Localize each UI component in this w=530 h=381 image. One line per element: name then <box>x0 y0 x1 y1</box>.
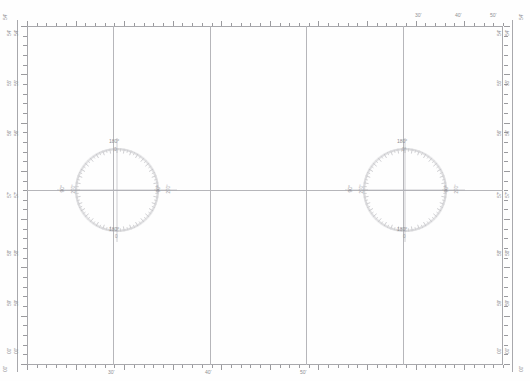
tick-left <box>23 200 27 201</box>
tick-bottom <box>182 365 183 368</box>
tick-bottom <box>464 365 465 370</box>
tick-top <box>396 23 397 26</box>
right-scale-label-pair: 57' <box>505 192 510 198</box>
tick-right <box>504 345 508 346</box>
tick-left <box>23 36 27 37</box>
tick-top <box>85 23 86 26</box>
tick-bottom <box>56 365 57 368</box>
tick-right <box>504 248 508 249</box>
tick-top <box>289 23 290 26</box>
tick-right <box>504 354 508 355</box>
tick-left <box>23 84 27 85</box>
corner-label-right-bottom: 00' <box>519 366 524 372</box>
left-scale-label-pair: 55' <box>14 80 19 86</box>
tick-top <box>425 23 426 26</box>
corner-label-left-bottom: 00' <box>3 366 8 372</box>
tick-bottom <box>66 365 67 368</box>
tick-right <box>504 45 508 46</box>
tick-bottom <box>76 365 77 370</box>
tick-left <box>21 123 27 124</box>
left-scale-label-pair: 59' <box>14 300 19 306</box>
tick-bottom <box>454 365 455 368</box>
tick-bottom <box>212 365 213 368</box>
rose-label-east-outer: 90° <box>444 185 450 193</box>
tick-left <box>21 26 27 27</box>
tick-top <box>182 23 183 26</box>
neatline-right-inner <box>512 20 513 372</box>
tick-bottom <box>221 365 222 370</box>
rose-label-south-inner: 0 <box>403 234 406 240</box>
tick-left <box>21 74 27 75</box>
tick-left <box>23 335 27 336</box>
tick-left <box>21 219 27 220</box>
tick-right <box>504 316 510 317</box>
tick-bottom <box>202 365 203 368</box>
tick-left <box>23 345 27 346</box>
tick-top <box>484 23 485 26</box>
tick-left <box>23 354 27 355</box>
tick-right <box>504 103 508 104</box>
tick-bottom <box>435 365 436 368</box>
tick-right <box>504 142 508 143</box>
tick-bottom <box>163 365 164 368</box>
tick-top <box>241 23 242 26</box>
tick-left <box>23 325 27 326</box>
tick-top <box>56 23 57 26</box>
tick-bottom <box>153 365 154 368</box>
tick-right <box>504 200 508 201</box>
neatline-right <box>502 26 503 365</box>
tick-top <box>153 23 154 26</box>
tick-top <box>367 21 368 26</box>
tick-right <box>504 65 508 66</box>
tick-top <box>474 23 475 26</box>
right-scale-label-pair: 56' <box>505 130 510 136</box>
tick-right <box>504 335 508 336</box>
tick-top <box>270 21 271 26</box>
tick-right <box>504 55 508 56</box>
tick-left <box>23 161 27 162</box>
tick-bottom <box>37 365 38 368</box>
rose-label-north-inner: 0 <box>114 147 117 153</box>
tick-top <box>124 21 125 26</box>
tick-top <box>212 23 213 26</box>
tick-bottom <box>377 365 378 368</box>
tick-bottom <box>425 365 426 368</box>
tick-bottom <box>367 365 368 370</box>
tick-left <box>23 258 27 259</box>
tick-bottom <box>144 365 145 368</box>
bottom-scale-label: 50' <box>300 370 307 375</box>
tick-right <box>504 219 510 220</box>
tick-top <box>454 23 455 26</box>
tick-top <box>416 21 417 26</box>
tick-right <box>504 94 508 95</box>
corner-label-right-top: 54' <box>519 14 524 20</box>
tick-right <box>504 287 508 288</box>
tick-bottom <box>396 365 397 368</box>
top-scale-label: 50' <box>490 13 497 18</box>
tick-top <box>95 23 96 26</box>
left-scale-label: 56' <box>7 130 12 136</box>
tick-top <box>445 23 446 26</box>
tick-bottom <box>416 365 417 370</box>
tick-right <box>504 26 510 27</box>
tick-left <box>23 287 27 288</box>
tick-top <box>134 23 135 26</box>
tick-left <box>23 296 27 297</box>
chart-canvas: 54'54'55'55'56'56'57'57'58'58'59'59'00'0… <box>0 0 530 381</box>
right-scale-label-pair: 00' <box>505 348 510 354</box>
right-scale-label: 54' <box>497 30 502 36</box>
rose-label-west-inner: 270° <box>359 184 365 193</box>
left-scale-label: 54' <box>7 30 12 36</box>
tick-bottom <box>406 365 407 368</box>
tick-bottom <box>250 365 251 368</box>
tick-top <box>27 21 28 26</box>
tick-top <box>348 23 349 26</box>
neatline-top <box>27 26 503 27</box>
tick-right <box>504 113 508 114</box>
left-scale-label: 55' <box>7 80 12 86</box>
rose-label-west-outer: 90° <box>60 185 66 193</box>
left-scale-label-pair: 54' <box>14 30 19 36</box>
tick-left <box>23 248 27 249</box>
tick-right <box>504 123 510 124</box>
tick-bottom <box>474 365 475 368</box>
